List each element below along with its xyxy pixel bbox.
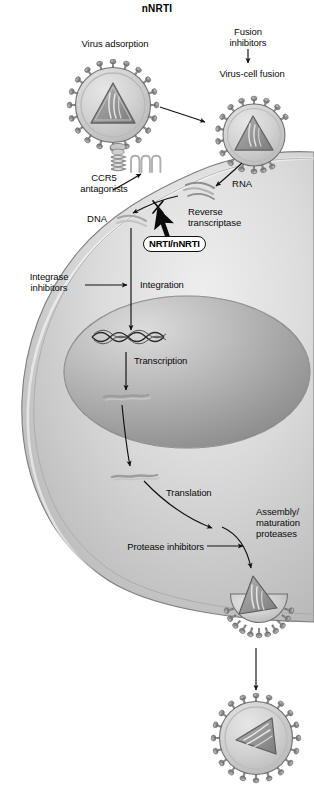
label-assembly-line1: Assembly/ — [256, 506, 299, 517]
hiv-lifecycle-diagram — [0, 0, 314, 790]
nrti-nnrti-badge: NRTI/nNRTI — [143, 236, 206, 252]
label-integration: Integration — [140, 279, 184, 290]
label-integrase-inhibitors-line1: Integrase — [30, 271, 69, 282]
label-ccr5-antagonists-line2: antagonists — [80, 183, 128, 194]
label-integrase-inhibitors-line2: inhibitors — [30, 282, 67, 293]
label-transcription: Transcription — [134, 355, 187, 366]
label-assembly-line2: maturation — [256, 517, 300, 528]
label-protease-inhibitors: Protease inhibitors — [127, 541, 204, 552]
nucleus-shape — [64, 296, 310, 448]
label-virus-adsorption: Virus adsorption — [82, 38, 149, 49]
cell-nucleus — [64, 296, 310, 448]
adsorption-to-fusion-arrow — [160, 107, 205, 122]
label-assembly-line3: proteases — [256, 528, 297, 539]
label-ccr5-antagonists-line1: CCR5 — [91, 172, 116, 183]
label-reverse-transcriptase-line1: Reverse — [188, 206, 223, 217]
hiv-virion-icon — [67, 59, 159, 151]
ccr5-receptor-icon — [131, 156, 160, 172]
label-dna: DNA — [87, 213, 107, 224]
label-fusion-inhibitors-line1: Fusion — [234, 26, 262, 37]
label-virus-cell-fusion: Virus-cell fusion — [219, 68, 284, 79]
cd4-receptor-icon — [110, 143, 126, 170]
figure-canvas: nNRTI Virus adsorption Fusion inhibitors… — [0, 0, 314, 790]
label-fusion-inhibitors-line2: inhibitors — [229, 37, 266, 48]
figure-title: nNRTI — [142, 3, 172, 14]
label-reverse-transcriptase-line2: transcriptase — [188, 217, 241, 228]
hiv-virion-released-icon — [211, 693, 301, 783]
label-translation: Translation — [166, 487, 212, 498]
label-rna: RNA — [232, 178, 252, 189]
